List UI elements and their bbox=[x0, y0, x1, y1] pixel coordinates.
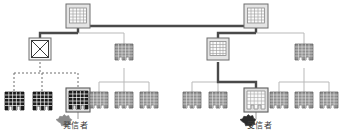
node-leaf-d2[interactable] bbox=[33, 92, 52, 110]
node-mid-left-b[interactable] bbox=[115, 44, 133, 60]
node-root-left[interactable] bbox=[66, 4, 90, 28]
node-leaf-receiver[interactable] bbox=[244, 88, 268, 112]
network-topology-diagram: 発信者 受信者 bbox=[0, 0, 346, 137]
node-mid-right-a[interactable] bbox=[207, 38, 229, 60]
node-root-right[interactable] bbox=[244, 4, 268, 28]
node-leaf-d1[interactable] bbox=[5, 92, 24, 110]
node-leaf-g4[interactable] bbox=[183, 92, 201, 108]
diagram-canvas bbox=[0, 0, 346, 137]
node-mid-right-b[interactable] bbox=[295, 44, 313, 60]
node-leaf-g7[interactable] bbox=[295, 92, 313, 108]
node-layer bbox=[5, 4, 338, 112]
node-leaf-g1[interactable] bbox=[90, 92, 108, 108]
legend-receiver-label: 受信者 bbox=[247, 121, 272, 131]
node-leaf-g3[interactable] bbox=[140, 92, 158, 108]
node-leaf-sender[interactable] bbox=[66, 88, 90, 112]
node-failed-crossed[interactable] bbox=[29, 38, 51, 60]
legend-sender-label: 発信者 bbox=[63, 121, 88, 131]
node-leaf-g8[interactable] bbox=[320, 92, 338, 108]
node-leaf-g5[interactable] bbox=[209, 92, 227, 108]
node-leaf-g2[interactable] bbox=[115, 92, 133, 108]
node-leaf-g6[interactable] bbox=[270, 92, 288, 108]
